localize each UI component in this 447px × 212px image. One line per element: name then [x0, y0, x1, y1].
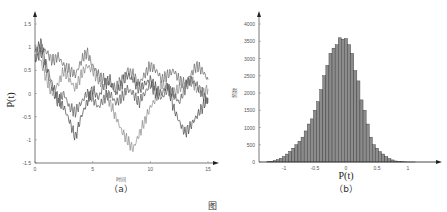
chart-b-y-arrow-icon	[257, 11, 261, 17]
chart-b-bar	[301, 137, 304, 162]
chart-a-y-tick-label: -1	[27, 137, 32, 143]
chart-b-bar	[289, 151, 292, 162]
chart-a-y-tick-label: 0	[28, 91, 31, 97]
chart-b-bar	[320, 90, 323, 162]
chart-b-bar	[279, 158, 282, 162]
chart-a-x-tick-label: 10	[148, 166, 154, 172]
chart-b-y-tick-label: 4000	[244, 21, 255, 27]
chart-b-bar	[298, 141, 301, 162]
chart-b-bar	[348, 45, 351, 162]
chart-b-y-tick-label: 3500	[244, 38, 255, 44]
chart-a-y-tick-label: -1.5	[22, 160, 31, 166]
chart-b-x-arrow-icon	[436, 160, 442, 164]
chart-a-x-arrow-icon	[213, 161, 219, 165]
chart-b-x-tick-label: 1	[407, 165, 410, 171]
chart-b-bar	[382, 154, 385, 162]
chart-a-trajectories: 1.510.50-0.5-1-1.5 051015 P(t) 时间 （a）	[5, 11, 219, 194]
chart-b-bar	[295, 145, 298, 162]
chart-b-x-tick-label: -1	[282, 165, 287, 171]
chart-b-y-tick-label: 2000	[244, 90, 255, 96]
chart-b-bar	[388, 159, 391, 162]
chart-b-bar	[385, 156, 388, 162]
chart-b-y-tick-label: 3000	[244, 56, 255, 62]
chart-b-bar	[329, 53, 332, 162]
chart-b-bar	[286, 154, 289, 162]
chart-b-bar	[332, 48, 335, 162]
chart-b-y-tick-label: 1000	[244, 125, 255, 131]
chart-a-x-label: 时间	[116, 176, 126, 183]
chart-b-bar	[357, 81, 360, 162]
chart-b-bar	[323, 76, 326, 162]
chart-b-bar	[344, 38, 347, 162]
chart-a-panel-label: （a）	[109, 184, 133, 194]
chart-b-x-label: P(t)	[339, 170, 354, 182]
chart-b-bar	[366, 124, 369, 162]
chart-b-y-tick-label: 500	[247, 142, 256, 148]
chart-b-y-tick-label: 2500	[244, 73, 255, 79]
chart-b-bar	[307, 124, 310, 162]
chart-b-bar	[317, 102, 320, 162]
chart-a-line-1	[35, 39, 208, 141]
chart-a-y-tick-label: -0.5	[22, 114, 31, 120]
chart-a-x-tick-label: 0	[34, 166, 37, 172]
figure-caption-prefix: 图	[208, 201, 217, 211]
chart-a-y-label: P(t)	[5, 93, 17, 108]
chart-b-y-ticks: 40003500300025002000150010005000	[244, 21, 261, 165]
chart-b-bar	[375, 148, 378, 162]
chart-b-bar	[369, 137, 372, 162]
chart-a-y-tick-label: 1	[28, 44, 31, 50]
chart-b-y-tick-label: 1500	[244, 107, 255, 113]
chart-a-y-tick-label: 0.5	[24, 67, 31, 73]
chart-b-bar	[326, 65, 329, 162]
chart-b-bar	[351, 53, 354, 162]
chart-b-x-tick-label: 0.5	[374, 165, 381, 171]
chart-b-y-label: 频数	[231, 88, 238, 98]
chart-a-series	[35, 39, 208, 152]
chart-b-histogram: 40003500300025002000150010005000 -1-0.50…	[231, 11, 442, 194]
chart-a-y-tick-label: 1.5	[24, 21, 31, 27]
chart-a-line-2	[35, 44, 208, 95]
chart-b-bar	[379, 152, 382, 162]
chart-b-bar	[292, 148, 295, 162]
chart-b-bars	[267, 38, 416, 162]
chart-b-bar	[313, 110, 316, 162]
chart-b-x-tick-label: -0.5	[311, 165, 320, 171]
chart-b-bar	[304, 131, 307, 162]
chart-a-x-tick-label: 5	[91, 166, 94, 172]
chart-b-bar	[363, 110, 366, 162]
chart-b-bar	[335, 45, 338, 162]
chart-b-y-tick-label: 0	[252, 159, 255, 165]
chart-a-y-arrow-icon	[33, 11, 37, 17]
chart-b-bar	[372, 145, 375, 162]
chart-b-bar	[341, 39, 344, 162]
chart-b-bar	[338, 38, 341, 162]
chart-a-x-tick-label: 15	[205, 166, 211, 172]
chart-b-bar	[360, 100, 363, 162]
chart-b-panel-label: （b）	[334, 184, 358, 194]
chart-b-bar	[282, 156, 285, 162]
chart-b-bar	[354, 71, 357, 162]
figure: 1.510.50-0.5-1-1.5 051015 P(t) 时间 （a） 40…	[0, 0, 447, 212]
chart-b-bar	[310, 119, 313, 162]
